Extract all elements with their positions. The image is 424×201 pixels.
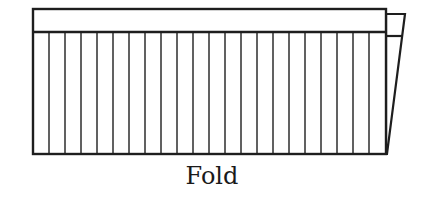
diagram-caption: Fold <box>0 160 424 192</box>
fold-flap <box>386 14 405 154</box>
main-panel <box>33 9 386 154</box>
pleat-lines <box>49 32 369 154</box>
